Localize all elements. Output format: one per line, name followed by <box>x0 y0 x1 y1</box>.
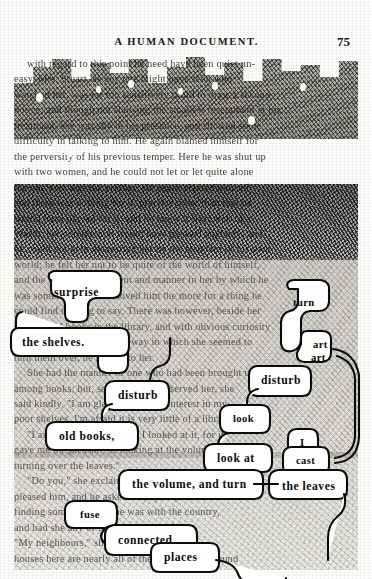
body-text-line: the perversity of his previous temper. H… <box>14 149 358 164</box>
body-text-line: notice; and though not showing the small… <box>14 102 358 117</box>
river-word-art-upper: art <box>313 339 328 350</box>
river-word-the-shelves: the shelves. <box>22 336 85 349</box>
body-text-line: finding some topic, if she was with the … <box>14 504 358 519</box>
river-word-turn: turn <box>293 297 315 308</box>
river-word-disturb-left: disturb <box>118 389 158 402</box>
river-word-the-leaves: the leaves <box>282 480 335 493</box>
body-text-line: "My neighbours," she answered, "and the <box>14 535 358 550</box>
river-word-i: I <box>300 437 305 448</box>
body-text-line: and there was nothing for it, practice o… <box>14 195 358 210</box>
body-text-line: he could not help measuring her by the s… <box>14 241 358 256</box>
body-text-line: Worth: her complexion would have pleased… <box>14 226 358 241</box>
body-text-line: treatment, she was shy in his presence, … <box>14 118 358 133</box>
body-text-line: She had the manner of one who had been b… <box>14 365 358 380</box>
river-word-look: look <box>233 413 254 424</box>
body-text-line: world; he felt her not to be quite of th… <box>14 257 358 272</box>
body-text-line: among books; but, seeing that he observe… <box>14 381 358 396</box>
river-word-connected: connected <box>118 534 173 547</box>
river-word-look-at: look at <box>217 452 255 465</box>
river-word-the-volume-and-turn: the volume, and turn <box>132 478 247 491</box>
folio-number: 75 <box>337 34 350 50</box>
body-text-line: would have played for it, and he knew it… <box>14 211 358 226</box>
treated-page: with regard to this point he need have b… <box>0 0 372 579</box>
page-title: A HUMAN DOCUMENT. <box>0 36 372 47</box>
river-word-art-lower: art <box>311 352 326 363</box>
body-text-line: with two women, and he could not let or … <box>14 164 358 179</box>
body-text-line: easy. Mrs. Stuart, as any one might have… <box>14 71 358 86</box>
running-head: A HUMAN DOCUMENT. 75 <box>0 36 372 56</box>
river-word-places: places <box>164 551 198 564</box>
body-text-line: the few old books in the library, and wi… <box>14 319 358 334</box>
river-word-fuse: fuse <box>80 509 100 520</box>
body-text-line: poor shelves. I'm afraid it is very litt… <box>14 411 358 426</box>
river-word-surprise: surprise <box>54 286 99 299</box>
body-text-line: watched her, was far too sensitively tim… <box>14 87 358 102</box>
river-word-disturb-right: disturb <box>261 374 301 387</box>
river-word-old-books: old books, <box>59 430 115 443</box>
body-text-line: the one who was the prettier. He again b… <box>14 180 358 195</box>
body-text-line: with regard to this point he need have b… <box>14 56 358 71</box>
body-text-line: difficulty in talking to him. He again b… <box>14 133 358 148</box>
river-word-cast: cast <box>296 455 315 466</box>
body-text-line: said kindly, "I am glad you take an inte… <box>14 396 358 411</box>
body-text-line: turn them over, he moved to her. <box>14 350 358 365</box>
body-text-line: and had she any of the places herself. <box>14 520 358 535</box>
